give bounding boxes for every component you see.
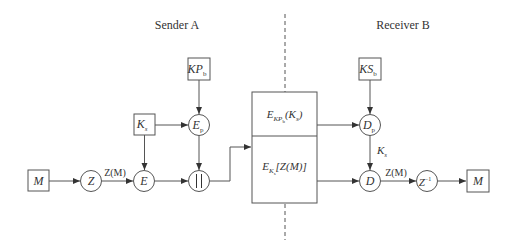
edge-label-zm-receiver: Z(M): [385, 167, 407, 179]
encrypt-node: E: [134, 171, 155, 192]
edge-concat-to-channel: [210, 147, 251, 181]
decrypt-text: D: [365, 174, 375, 188]
decompress-node: Z−1: [417, 171, 438, 192]
receiver-message-box: M: [467, 170, 489, 192]
receiver-message-text: M: [472, 174, 484, 188]
sender-message-box: M: [28, 170, 49, 191]
secret-key-sub: b: [373, 70, 377, 78]
decrypt-private-sub: p: [372, 126, 376, 134]
sender-message-text: M: [33, 174, 45, 188]
session-key-box: Ks: [134, 114, 155, 135]
concat-node: [189, 171, 210, 192]
encrypt-public-node: Ep: [189, 115, 210, 136]
encrypt-public-sub: p: [200, 126, 204, 134]
edge-label-zm-sender: Z(M): [104, 167, 126, 179]
transmitted-message-box: EKPb(Ks) EKs[Z(M)]: [252, 92, 317, 203]
decompress-sup: −1: [425, 176, 431, 182]
decrypt-node: D: [360, 171, 381, 192]
encrypt-text: E: [139, 174, 148, 188]
decrypt-private-node: Dp: [360, 115, 381, 136]
compress-node: Z: [81, 171, 102, 192]
secret-key-box: KSb: [358, 58, 381, 80]
session-key-sub: s: [145, 125, 148, 133]
secret-key-main: KS: [358, 62, 373, 76]
public-key-main: KP: [187, 62, 204, 76]
receiver-label: Receiver B: [376, 18, 430, 32]
pgp-diagram: Sender A Receiver B M Z Z(M) E Ks KPb: [0, 0, 517, 249]
decrypt-private-main: D: [362, 118, 372, 132]
public-key-box: KPb: [187, 58, 210, 80]
public-key-sub: b: [203, 70, 207, 78]
sender-label: Sender A: [155, 18, 200, 32]
compress-text: Z: [88, 174, 95, 188]
edge-label-ks-receiver: Ks: [376, 144, 387, 159]
